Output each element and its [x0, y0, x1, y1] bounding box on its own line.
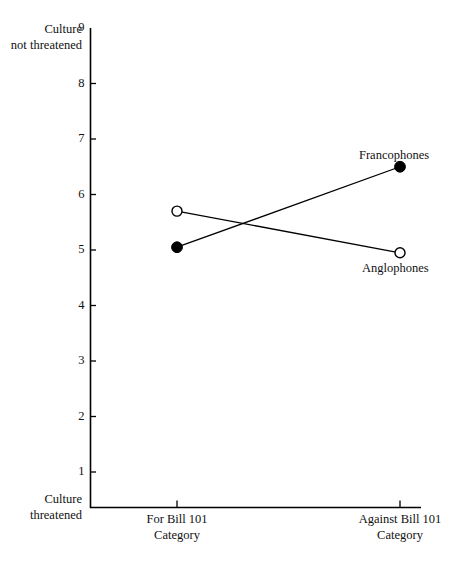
y-axis-ticks — [91, 84, 97, 473]
line-chart: Culture not threatened Culture threatene… — [0, 0, 455, 582]
x-category-sublabel-1: Category — [377, 528, 423, 542]
y-tick-label-7: 7 — [59, 131, 85, 146]
series-markers — [172, 161, 406, 257]
x-category-label-0: For Bill 101 Category — [107, 512, 247, 543]
data-point-anglophones-0 — [172, 206, 182, 216]
y-axis-top-caption-line2: not threatened — [11, 38, 82, 52]
y-tick-label-8: 8 — [59, 76, 85, 91]
y-tick-label-4: 4 — [59, 298, 85, 313]
x-category-label-1: Against Bill 101 Category — [330, 512, 455, 543]
y-tick-label-9: 9 — [59, 20, 85, 35]
y-tick-label-3: 3 — [59, 353, 85, 368]
series-label-anglophones: Anglophones — [362, 261, 429, 276]
x-category-name-0: For Bill 101 — [146, 512, 207, 526]
x-category-name-1: Against Bill 101 — [359, 512, 442, 526]
series-line-anglophones — [177, 211, 400, 253]
y-tick-label-1: 1 — [59, 464, 85, 479]
x-category-sublabel-0: Category — [154, 528, 200, 542]
series-line-francophones — [177, 167, 400, 247]
y-tick-label-6: 6 — [59, 187, 85, 202]
y-axis-bottom-caption-line2: threatened — [30, 508, 82, 522]
y-axis-bottom-caption: Culture threatened — [8, 492, 82, 523]
data-point-anglophones-1 — [395, 248, 405, 258]
series-label-francophones: Francophones — [359, 148, 429, 163]
series-lines — [177, 167, 400, 253]
x-axis-ticks — [177, 501, 400, 508]
y-tick-label-5: 5 — [59, 242, 85, 257]
data-point-francophones-0 — [172, 242, 183, 253]
y-axis-bottom-caption-line1: Culture — [45, 492, 83, 506]
y-tick-label-2: 2 — [59, 409, 85, 424]
